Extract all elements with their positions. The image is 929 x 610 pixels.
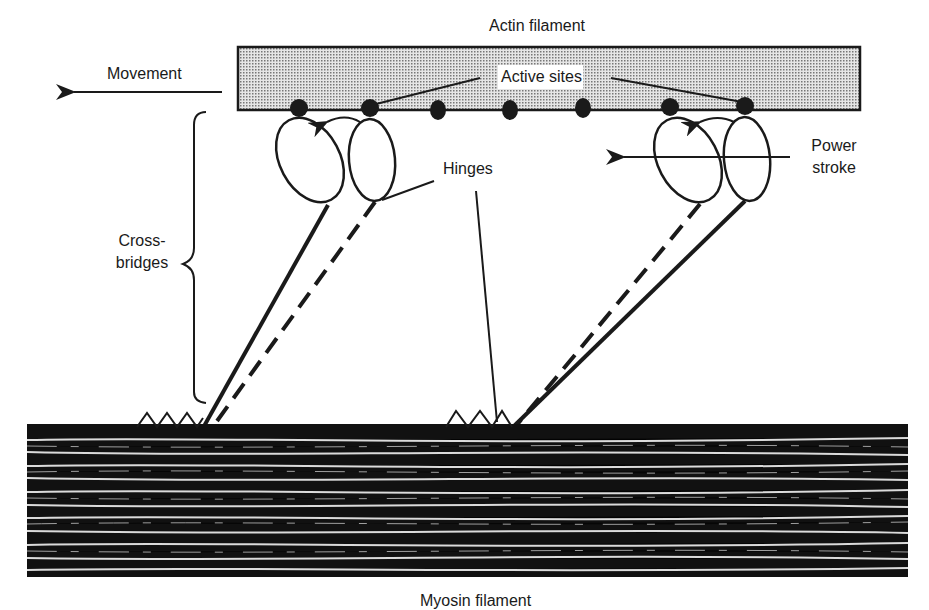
active-sites-label: Active sites (501, 68, 582, 86)
active-site-dot (736, 97, 754, 115)
active-site-dot (661, 98, 679, 116)
cross-bridge-left (203, 106, 398, 428)
active-site-dot (430, 100, 446, 120)
power-stroke-label: Power stroke (804, 137, 864, 177)
myosin-head-upright (346, 117, 399, 203)
myosin-filament (27, 424, 908, 577)
myosin-arm-solid (203, 205, 328, 428)
hinges-label: Hinges (443, 160, 493, 178)
cross-bridges-label: Cross- bridges (110, 232, 174, 272)
power-stroke-curve (700, 118, 734, 122)
myosin-filament-label: Myosin filament (420, 592, 531, 610)
cross-bridges-label-line1: Cross- (110, 232, 174, 250)
active-site-dot (575, 98, 591, 118)
myosin-head-tilted (640, 106, 735, 214)
myosin-head-upright (720, 115, 773, 203)
active-site-dot (361, 99, 379, 117)
active-site-dot (290, 99, 308, 117)
power-stroke-curve (327, 118, 360, 123)
power-stroke-label-line1: Power (804, 137, 864, 155)
movement-label: Movement (107, 65, 182, 83)
myosin-arm-solid (512, 201, 745, 428)
myosin-arm-dashed (212, 202, 375, 428)
cross-bridges-label-line2: bridges (110, 254, 174, 272)
actin-filament-label: Actin filament (489, 17, 585, 35)
hinge-pointers (382, 181, 497, 422)
cross-bridges-brace (183, 112, 206, 403)
power-stroke-label-line2: stroke (804, 159, 864, 177)
cross-bridge-right (512, 106, 774, 428)
myosin-arm-dashed (516, 204, 700, 426)
active-site-dot (502, 100, 518, 120)
myosin-head-tilted (262, 106, 357, 214)
